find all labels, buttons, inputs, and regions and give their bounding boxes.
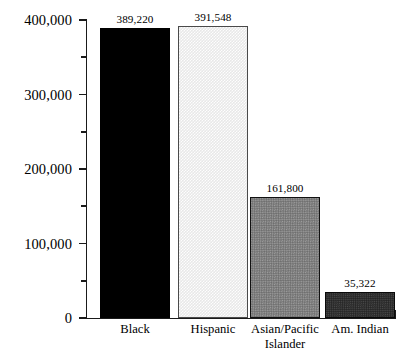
category-label-line: Am. Indian xyxy=(331,322,388,336)
bar-4 xyxy=(325,292,395,318)
y-axis-major-tick-300000 xyxy=(79,94,87,96)
category-label-line: Islander xyxy=(240,337,330,349)
y-axis-label-100000: 100,000 xyxy=(24,236,72,251)
category-label-line: Asian/Pacific xyxy=(251,322,319,336)
y-axis-label-400000: 400,000 xyxy=(24,13,72,28)
bar-chart: 0100,000200,000300,000400,000 389,220391… xyxy=(0,0,409,349)
y-axis-major-tick-100000 xyxy=(79,243,87,245)
category-label-line: Hispanic xyxy=(191,322,236,336)
x-axis-category-label-1: Black xyxy=(90,322,180,337)
y-axis-major-tick-400000 xyxy=(79,19,87,21)
y-axis-label-200000: 200,000 xyxy=(24,162,72,177)
bar-1 xyxy=(100,28,170,318)
bar-value-label-2: 391,548 xyxy=(178,12,248,23)
bar-value-label-4: 35,322 xyxy=(325,278,395,289)
y-axis-major-tick-200000 xyxy=(79,168,87,170)
bar-2 xyxy=(178,26,248,318)
category-label-line: Black xyxy=(120,322,149,336)
y-axis-major-tick-0 xyxy=(79,317,87,319)
bar-3 xyxy=(250,197,320,318)
x-axis-category-label-4: Am. Indian xyxy=(315,322,405,337)
y-axis-label-300000: 300,000 xyxy=(24,87,72,102)
y-axis-label-0: 0 xyxy=(65,311,72,326)
bar-value-label-1: 389,220 xyxy=(100,14,170,25)
plot-area xyxy=(87,20,396,318)
bar-value-label-3: 161,800 xyxy=(250,183,320,194)
